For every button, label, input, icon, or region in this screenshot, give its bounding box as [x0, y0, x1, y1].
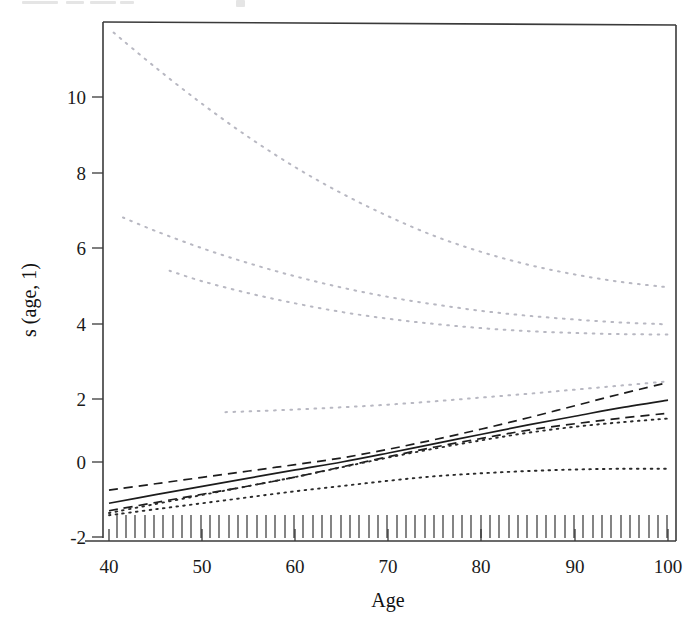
- x-axis-title: Age: [371, 589, 404, 612]
- curve-group: [109, 33, 668, 516]
- x-axis-rug-plot: [117, 515, 667, 538]
- scan-artifacts: [22, 0, 245, 7]
- curve-7: [123, 218, 668, 325]
- y-tick-label-6: 6: [77, 238, 87, 259]
- x-axis-ticks: [109, 529, 668, 541]
- curve-3: [109, 413, 668, 511]
- plot-frame: [85, 22, 676, 541]
- smooth-term-plot-svg: 10 8 6 4 2 0 -2 s (age, 1): [0, 0, 697, 624]
- y-tick-label-0: 0: [77, 452, 87, 473]
- y-tick-label-4: 4: [77, 314, 87, 335]
- y-tick-label-neg2: -2: [70, 527, 86, 548]
- y-axis-tick-labels: 10 8 6 4 2 0 -2: [67, 87, 87, 548]
- x-tick-label-50: 50: [193, 556, 212, 577]
- x-tick-label-90: 90: [566, 556, 585, 577]
- y-tick-label-10: 10: [67, 87, 86, 108]
- x-axis-tick-labels: 40 50 60 70 80 90 100: [100, 556, 683, 577]
- y-axis-ticks: [92, 97, 103, 537]
- curve-9: [225, 381, 668, 412]
- x-tick-label-100: 100: [654, 556, 683, 577]
- chart-figure: 10 8 6 4 2 0 -2 s (age, 1): [0, 0, 697, 624]
- y-axis-title: s (age, 1): [18, 263, 41, 337]
- curve-1: [109, 400, 668, 503]
- curve-6: [114, 33, 668, 288]
- y-tick-label-2: 2: [77, 389, 87, 410]
- y-tick-label-8: 8: [77, 163, 87, 184]
- curve-5: [109, 469, 668, 516]
- x-tick-label-70: 70: [379, 556, 398, 577]
- x-tick-label-80: 80: [472, 556, 491, 577]
- x-tick-label-40: 40: [100, 556, 119, 577]
- x-tick-label-60: 60: [286, 556, 305, 577]
- curve-2: [109, 383, 668, 491]
- curve-4: [109, 419, 668, 514]
